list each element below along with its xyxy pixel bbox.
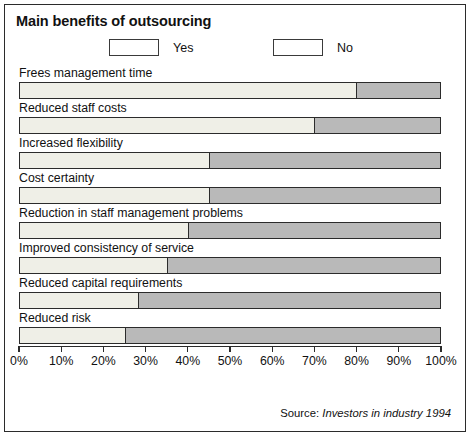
axis-tick [103, 346, 104, 352]
category-label: Frees management time [19, 66, 152, 81]
category-label: Reduced staff costs [19, 101, 127, 116]
legend-entry-yes: Yes [109, 38, 193, 57]
stacked-bar [19, 292, 441, 309]
axis-tick [187, 346, 188, 352]
chart-row: Increased flexibility [5, 136, 465, 171]
source-publication: Investors in industry 1994 [322, 407, 451, 419]
chart-row: Frees management time [5, 66, 465, 101]
source-note: Source: Investors in industry 1994 [280, 407, 451, 419]
chart-row: Reduction in staff management problems [5, 206, 465, 241]
axis-tick [356, 346, 357, 352]
axis-tick [314, 346, 315, 352]
axis-tick-label: 10% [49, 354, 74, 368]
axis-tick-label: 80% [344, 354, 369, 368]
axis-tick-label: 30% [133, 354, 158, 368]
chart-row: Reduced staff costs [5, 101, 465, 136]
stacked-bar [19, 222, 441, 239]
category-label: Cost certainty [19, 171, 94, 186]
axis-tick [145, 346, 146, 352]
bar-segment-no [138, 293, 440, 308]
axis-tick-label: 60% [260, 354, 285, 368]
bar-segment-no [167, 258, 440, 273]
bar-segment-yes [20, 153, 209, 168]
legend-label-no: No [337, 41, 353, 55]
category-label: Reduction in staff management problems [19, 206, 243, 221]
bar-segment-no [356, 83, 440, 98]
stacked-bar [19, 152, 441, 169]
bar-segment-yes [20, 83, 356, 98]
bar-segment-yes [20, 223, 188, 238]
axis-tick [229, 346, 230, 352]
axis-tick [440, 346, 441, 352]
bar-segment-no [314, 118, 440, 133]
bar-segment-yes [20, 118, 314, 133]
chart-row: Cost certainty [5, 171, 465, 206]
chart-figure: Main benefits of outsourcing Yes No Free… [4, 4, 466, 432]
bar-segment-no [125, 328, 440, 343]
axis-tick [61, 346, 62, 352]
chart-legend: Yes No [5, 38, 465, 60]
axis-tick-label: 90% [386, 354, 411, 368]
axis-tick [272, 346, 273, 352]
axis-tick-label: 100% [425, 354, 456, 368]
category-label: Increased flexibility [19, 136, 123, 151]
stacked-bar [19, 187, 441, 204]
stacked-bar [19, 327, 441, 344]
chart-row: Reduced capital requirements [5, 276, 465, 311]
axis-tick [398, 346, 399, 352]
bar-segment-yes [20, 293, 138, 308]
axis-tick [18, 346, 19, 352]
axis-tick-label: 40% [175, 354, 200, 368]
chart-x-axis: 0%10%20%30%40%50%60%70%80%90%100% [19, 346, 441, 372]
bar-segment-no [209, 188, 440, 203]
stacked-bar [19, 82, 441, 99]
chart-row: Improved consistency of service [5, 241, 465, 276]
bar-segment-yes [20, 328, 125, 343]
category-label: Improved consistency of service [19, 241, 194, 256]
bar-segment-yes [20, 188, 209, 203]
axis-tick-label: 0% [10, 354, 28, 368]
legend-swatch-no [273, 39, 323, 56]
legend-label-yes: Yes [173, 41, 193, 55]
category-label: Reduced risk [19, 311, 91, 326]
stacked-bar [19, 117, 441, 134]
axis-tick-label: 50% [218, 354, 243, 368]
legend-entry-no: No [273, 38, 353, 57]
stacked-bar [19, 257, 441, 274]
source-prefix: Source: [280, 407, 319, 419]
bar-segment-no [209, 153, 440, 168]
bar-segment-no [188, 223, 440, 238]
category-label: Reduced capital requirements [19, 276, 182, 291]
chart-title: Main benefits of outsourcing [16, 13, 211, 29]
axis-tick-label: 20% [91, 354, 116, 368]
bar-segment-yes [20, 258, 167, 273]
chart-row: Reduced risk [5, 311, 465, 346]
legend-swatch-yes [109, 39, 159, 56]
chart-rows: Frees management timeReduced staff costs… [5, 66, 465, 346]
axis-tick-label: 70% [302, 354, 327, 368]
